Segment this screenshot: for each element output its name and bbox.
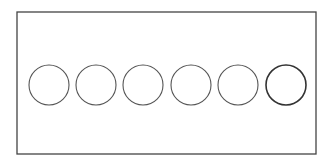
circle-4: [171, 65, 211, 105]
rectangle-frame: [17, 12, 316, 154]
circle-2: [76, 65, 116, 105]
circle-1: [29, 65, 69, 105]
circle-5: [218, 65, 258, 105]
circle-row: [29, 65, 306, 105]
circle-6: [266, 65, 306, 105]
diagram-canvas: [0, 0, 332, 167]
circle-3: [123, 65, 163, 105]
